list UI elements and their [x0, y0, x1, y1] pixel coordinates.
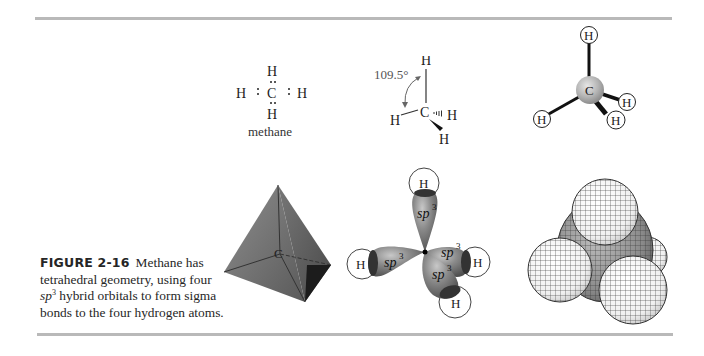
- bottom-rule: [37, 333, 673, 336]
- figure-caption: FIGURE 2-16Methane has tetrahedral geome…: [40, 255, 230, 321]
- svg-text:3: 3: [432, 202, 437, 212]
- bond-left: [401, 110, 418, 115]
- orbital-diagram: H H H H sp 3 sp 3 sp 3 sp 3: [340, 160, 510, 330]
- ball-atom-left: H: [537, 112, 546, 127]
- lewis-atom-bottom: H: [267, 107, 277, 122]
- wedge-atom-left: H: [390, 113, 400, 128]
- lewis-atom-top: H: [267, 64, 277, 79]
- tetrahedron-diagram: C: [210, 180, 340, 320]
- lewis-structure: H H C H H methane: [232, 62, 332, 172]
- lewis-atom-center: C: [267, 86, 276, 101]
- carbon-nucleus: [423, 250, 428, 255]
- svg-text:sp: sp: [384, 255, 396, 270]
- lobe-right-cap: [461, 250, 471, 274]
- sf-h-top: [572, 179, 638, 245]
- sf-h-front: [599, 256, 667, 324]
- sf-h-left: [528, 238, 592, 302]
- wedge-bond: [429, 119, 443, 131]
- caption-tail: hybrid orbitals to form sigma bonds to t…: [40, 288, 224, 320]
- wedge-dash-structure: 109.5° H C H H H: [374, 56, 504, 166]
- orbital-h-left: H: [356, 257, 365, 272]
- lewis-atom-left: H: [236, 86, 246, 101]
- orbital-model: H H H H sp 3 sp 3 sp 3 sp 3: [340, 160, 510, 330]
- figure-number: FIGURE 2-16: [40, 255, 130, 270]
- caption-sp: sp: [40, 288, 52, 303]
- dashed-bond: [434, 111, 442, 117]
- svg-text:sp: sp: [417, 206, 429, 221]
- svg-text:3: 3: [447, 263, 452, 273]
- ball-and-stick-diagram: C H H H H: [530, 20, 680, 160]
- lewis-atom-right: H: [297, 86, 307, 101]
- tetra-face-dark: [305, 265, 331, 302]
- bond-angle-label: 109.5°: [374, 67, 408, 82]
- angle-arrow-head-bottom: [402, 102, 408, 108]
- ball-atom-right: H: [622, 95, 631, 110]
- wedge-atom-bottom: H: [439, 132, 449, 147]
- ball-atom-top: H: [584, 28, 593, 43]
- ball-and-stick-model: C H H H H: [530, 20, 680, 160]
- orbital-h-bottom: H: [451, 296, 460, 311]
- orbital-h-right: H: [473, 255, 482, 270]
- lewis-name: methane: [248, 124, 292, 140]
- wedge-atom-right: H: [447, 108, 457, 123]
- svg-text:3: 3: [399, 251, 404, 261]
- angle-arrow-head-top: [415, 76, 421, 81]
- lobe-left-cap: [368, 250, 378, 276]
- svg-text:sp: sp: [432, 267, 444, 282]
- ball-atom-bottom: H: [611, 113, 620, 128]
- space-filling-diagram: [515, 175, 695, 330]
- ball-atom-center: C: [585, 83, 594, 98]
- svg-text:sp: sp: [441, 245, 453, 260]
- orbital-h-top: H: [419, 176, 428, 191]
- space-filling-model: [515, 175, 695, 330]
- tetra-center-label: C: [274, 246, 283, 261]
- wedge-atom-center: C: [420, 105, 429, 120]
- wedge-atom-top: H: [421, 56, 431, 68]
- wedge-dash-diagram: 109.5° H C H H H: [374, 56, 504, 166]
- svg-text:3: 3: [456, 241, 461, 251]
- tetrahedron-model: C: [210, 180, 340, 320]
